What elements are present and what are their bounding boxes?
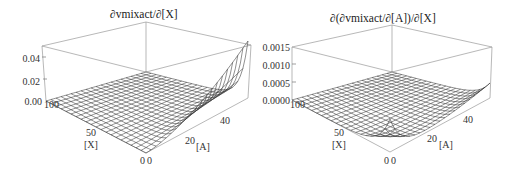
z-tick: 0.0000 <box>246 96 290 106</box>
z-tick: 0.0010 <box>246 61 290 71</box>
y-tick: 0 <box>391 156 396 166</box>
plot-title: ∂(∂vmixact/∂[A])/∂[X] <box>330 12 436 24</box>
x-axis-label: [X] <box>84 140 98 150</box>
z-tick: 0.0005 <box>246 79 290 89</box>
z-tick: 0.00 <box>0 97 42 107</box>
bounding-box <box>292 25 492 152</box>
y-tick: 40 <box>463 115 473 125</box>
surface-mesh <box>46 41 248 153</box>
x-tick: 0 <box>140 156 145 166</box>
y-tick: 20 <box>185 136 195 146</box>
plot-title: ∂vmixact/∂[X] <box>110 8 178 20</box>
y-tick: 40 <box>220 116 230 126</box>
plot-d2vmixact-dA-dX: ∂(∂vmixact/∂[A])/∂[X] 0.0015 0.0010 0.00… <box>246 0 517 175</box>
y-tick: 20 <box>427 134 437 144</box>
x-tick: 50 <box>86 128 96 138</box>
x-tick: 0 <box>384 156 389 166</box>
plot-dvmixact-dX: ∂vmixact/∂[X] 0.04 0.02 0.00 100 50 [X] … <box>0 0 258 175</box>
y-axis-label: [A] <box>439 140 453 150</box>
y-tick: 0 <box>147 156 152 166</box>
z-tick: 0.04 <box>16 54 40 64</box>
x-tick: 50 <box>334 128 344 138</box>
y-axis-label: [A] <box>196 142 210 152</box>
z-tick: 0.02 <box>16 77 40 87</box>
x-tick: 100 <box>290 100 305 110</box>
surface-mesh <box>292 72 490 137</box>
x-tick: 100 <box>44 100 59 110</box>
surface-plot-3d <box>0 0 258 175</box>
x-axis-label: [X] <box>332 140 346 150</box>
z-tick: 0.0015 <box>246 43 290 53</box>
